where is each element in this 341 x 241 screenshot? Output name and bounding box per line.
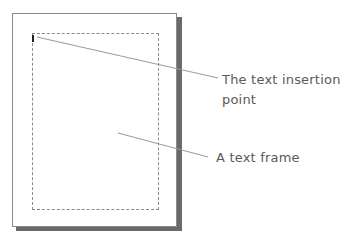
- callout-insertion-point: The text insertion point: [222, 70, 341, 110]
- callout-insertion-point-line1: The text insertion: [222, 70, 341, 90]
- callout-text-frame-line1: A text frame: [216, 148, 300, 168]
- callout-text-frame: A text frame: [216, 148, 300, 168]
- leader-line-text-frame: [118, 133, 208, 157]
- leader-lines: [0, 0, 341, 241]
- callout-insertion-point-line2: point: [222, 90, 341, 110]
- leader-line-insertion-point: [37, 37, 218, 78]
